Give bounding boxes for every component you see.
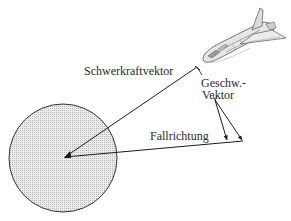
velocity-vector-label-line2: Vektor bbox=[202, 89, 234, 101]
gravity-vector-label: Schwerkraftvektor bbox=[84, 65, 173, 77]
planet-circle bbox=[9, 104, 117, 212]
orbital-fall-diagram bbox=[0, 0, 291, 221]
velocity-vector-arrow-2 bbox=[215, 100, 242, 140]
fall-direction-label: Fallrichtung bbox=[150, 130, 209, 142]
velocity-vector-arrow-1 bbox=[215, 100, 227, 140]
shuttle-bracket bbox=[197, 67, 202, 75]
space-shuttle-icon bbox=[203, 8, 286, 63]
